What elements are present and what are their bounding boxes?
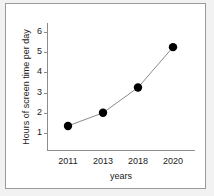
figure-frame: 123456 2011201320182020 Hours of screen … — [5, 3, 206, 189]
x-axis-title: years — [47, 171, 195, 181]
data-point-marker — [99, 109, 107, 117]
series-markers — [64, 43, 177, 130]
chart-page: 123456 2011201320182020 Hours of screen … — [0, 0, 214, 196]
series-line — [68, 47, 173, 126]
data-point-marker — [134, 83, 142, 91]
data-series-layer — [6, 4, 207, 190]
plot-area: 123456 2011201320182020 Hours of screen … — [6, 4, 207, 190]
y-axis-title: Hours of screen time per day — [21, 22, 31, 152]
data-point-marker — [64, 122, 72, 130]
data-point-marker — [169, 43, 177, 51]
